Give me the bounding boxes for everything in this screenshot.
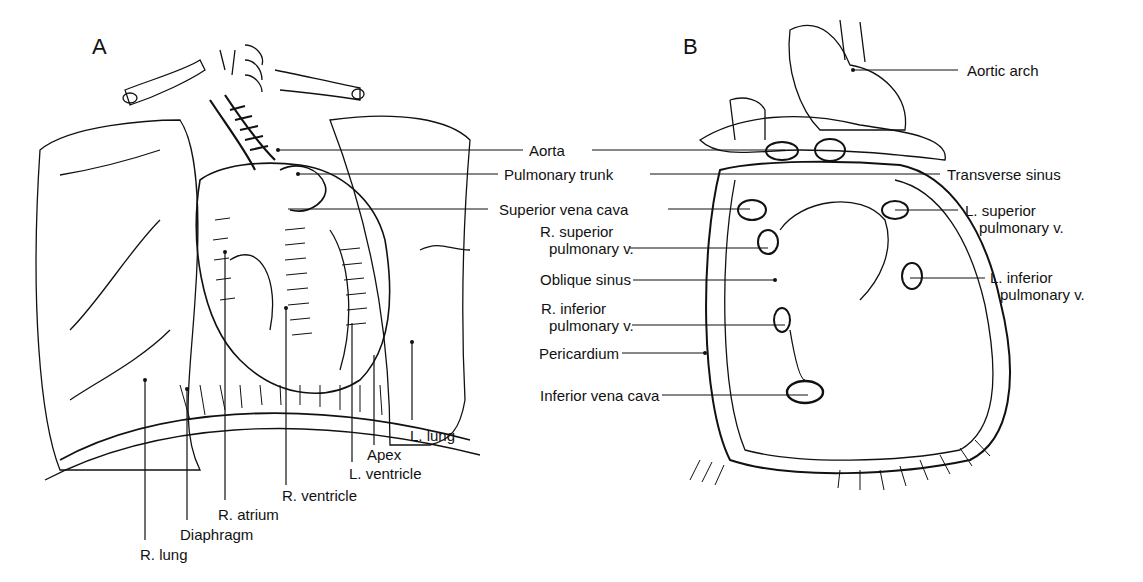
label-l-ventricle: L. ventricle <box>349 465 422 482</box>
label-line-1: L. superior <box>965 202 1064 219</box>
label-apex: Apex <box>367 446 401 463</box>
label-aortic-arch: Aortic arch <box>967 62 1039 79</box>
label-l-lung: L. lung <box>410 427 455 444</box>
label-r-lung: R. lung <box>140 546 188 563</box>
label-r-superior-pulmonary-v: R. superior pulmonary v. <box>540 223 634 257</box>
label-line-2: pulmonary v. <box>965 219 1064 236</box>
label-line-2: pulmonary v. <box>540 240 634 257</box>
label-pulmonary-trunk: Pulmonary trunk <box>504 166 613 183</box>
label-l-inferior-pulmonary-v: L. inferior pulmonary v. <box>990 269 1085 303</box>
label-aorta: Aorta <box>529 142 565 159</box>
label-line-1: R. inferior <box>541 300 634 317</box>
label-line-2: pulmonary v. <box>990 286 1085 303</box>
panel-b-letter: B <box>683 34 698 60</box>
label-oblique-sinus: Oblique sinus <box>540 271 631 288</box>
label-r-inferior-pulmonary-v: R. inferior pulmonary v. <box>541 300 634 334</box>
label-l-superior-pulmonary-v: L. superior pulmonary v. <box>965 202 1064 236</box>
label-superior-vena-cava: Superior vena cava <box>499 201 628 218</box>
label-transverse-sinus: Transverse sinus <box>947 166 1061 183</box>
label-line-1: R. superior <box>540 223 634 240</box>
label-line-2: pulmonary v. <box>541 317 634 334</box>
panel-a-letter: A <box>92 34 107 60</box>
label-pericardium: Pericardium <box>539 345 619 362</box>
label-diaphragm: Diaphragm <box>180 526 253 543</box>
label-r-ventricle: R. ventricle <box>282 487 357 504</box>
panel-a-drawing <box>36 45 480 480</box>
label-line-1: L. inferior <box>990 269 1085 286</box>
label-inferior-vena-cava: Inferior vena cava <box>540 387 659 404</box>
panel-b-drawing <box>690 20 1010 490</box>
anatomy-illustration <box>0 0 1143 582</box>
label-r-atrium: R. atrium <box>218 506 279 523</box>
